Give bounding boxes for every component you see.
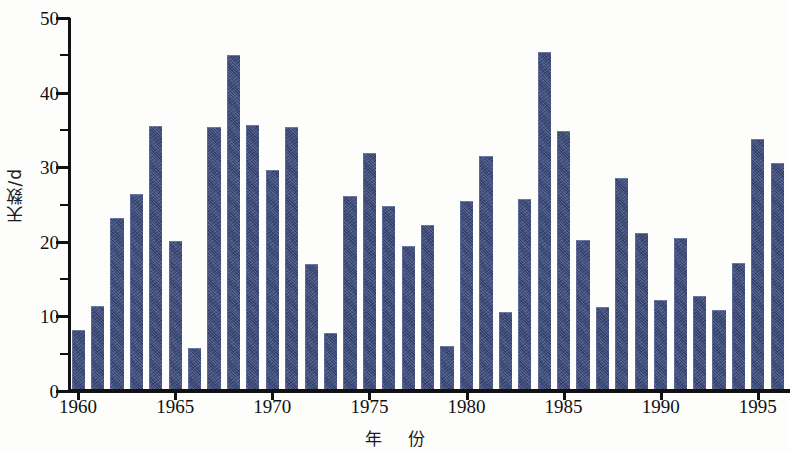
bar-1996 [771, 163, 784, 391]
y-major-tick-40 [56, 92, 70, 95]
bar-1975 [363, 153, 376, 391]
y-tick-label-30: 30 [25, 158, 59, 177]
bar-1974 [343, 196, 356, 391]
x-tick-label-1980: 1980 [448, 396, 486, 418]
bar-chart-figure: 天数/d 01020304050 19601965197019751980198… [0, 0, 790, 452]
bar-1970 [266, 170, 279, 391]
x-axis-title-part2: 份 [408, 429, 425, 449]
bar-1982 [499, 312, 512, 391]
bar-1995 [751, 139, 764, 391]
x-tick-label-1975: 1975 [350, 396, 388, 418]
bar-1973 [324, 333, 337, 391]
y-major-tick-30 [56, 166, 70, 169]
bar-1987 [596, 307, 609, 391]
y-tick-label-50: 50 [25, 9, 59, 28]
bar-1963 [130, 194, 143, 391]
bar-1991 [674, 238, 687, 391]
bar-1964 [149, 126, 162, 391]
bar-1978 [421, 225, 434, 391]
bar-1981 [479, 156, 492, 391]
bar-1984 [538, 52, 551, 391]
bar-1983 [518, 199, 531, 391]
bar-1976 [382, 206, 395, 391]
bar-1994 [732, 263, 745, 391]
bar-1980 [460, 201, 473, 391]
y-tick-label-0: 0 [25, 382, 59, 401]
bar-1986 [576, 240, 589, 391]
bar-1985 [557, 131, 570, 391]
bar-1968 [227, 55, 240, 391]
plot-area [71, 18, 790, 391]
bar-1988 [615, 178, 628, 391]
bar-1961 [91, 306, 104, 391]
bar-1962 [110, 218, 123, 391]
y-minor-tick-5 [60, 353, 70, 355]
y-axis-tick-labels: 01020304050 [0, 0, 59, 452]
y-tick-label-40: 40 [25, 83, 59, 102]
bar-1967 [207, 127, 220, 391]
bar-1992 [693, 296, 706, 391]
y-minor-tick-25 [60, 204, 70, 206]
x-tick-label-1965: 1965 [156, 396, 194, 418]
bar-1972 [305, 264, 318, 391]
bar-1993 [712, 310, 725, 391]
x-axis-title-part1: 年 [365, 429, 382, 449]
bar-1966 [188, 348, 201, 391]
y-major-tick-50 [56, 17, 70, 20]
y-minor-tick-45 [60, 54, 70, 56]
bar-1990 [654, 300, 667, 391]
x-axis-title: 年份 [0, 425, 790, 450]
bar-1989 [635, 233, 648, 391]
bar-1965 [169, 241, 182, 391]
bar-1960 [72, 330, 85, 391]
x-tick-label-1990: 1990 [642, 396, 680, 418]
x-tick-label-1985: 1985 [545, 396, 583, 418]
y-minor-tick-15 [60, 278, 70, 280]
y-tick-label-20: 20 [25, 232, 59, 251]
bar-1977 [402, 246, 415, 391]
x-tick-label-1970: 1970 [253, 396, 291, 418]
y-minor-tick-35 [60, 129, 70, 131]
x-tick-label-1995: 1995 [739, 396, 777, 418]
x-tick-label-1960: 1960 [59, 396, 97, 418]
bar-1969 [246, 125, 259, 391]
y-major-tick-10 [56, 315, 70, 318]
y-tick-label-10: 10 [25, 307, 59, 326]
bar-1979 [440, 346, 453, 391]
y-major-tick-20 [56, 241, 70, 244]
bar-1971 [285, 127, 298, 391]
